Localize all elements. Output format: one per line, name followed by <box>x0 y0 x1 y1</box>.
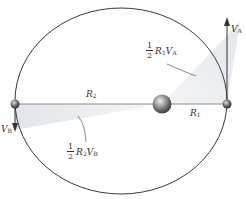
area-b-den: 2 <box>68 152 73 161</box>
area-a-v-sub: A <box>172 49 176 56</box>
leader-line-a <box>167 64 196 76</box>
swept-area-b <box>15 104 162 130</box>
area-b-expr: R2VB <box>76 147 98 157</box>
swept-area-a <box>162 22 240 104</box>
area-a-r: R <box>155 46 162 56</box>
planet-a-icon <box>223 100 232 109</box>
label-r2: R2 <box>86 90 97 99</box>
r2-base: R <box>86 89 93 99</box>
area-a-num: 1 <box>146 41 153 51</box>
vb-sub: B <box>8 127 12 134</box>
label-va: VA <box>231 25 242 34</box>
r1-sub: 1 <box>197 111 201 118</box>
orbit-diagram <box>0 0 246 199</box>
area-b-r: R <box>76 147 83 157</box>
label-area-a: 1 2 R1VA <box>146 41 177 60</box>
area-a-expr: R1VA <box>155 46 176 56</box>
label-vb: VB <box>1 125 12 134</box>
r2-sub: 2 <box>93 92 97 99</box>
area-b-num: 1 <box>67 142 74 152</box>
area-b-v-sub: B <box>93 150 97 157</box>
label-r1: R1 <box>190 109 201 118</box>
planet-b-icon <box>11 100 20 109</box>
fraction-half-b: 1 2 <box>67 142 74 161</box>
label-area-b: 1 2 R2VB <box>67 142 98 161</box>
sun-icon <box>153 95 172 114</box>
va-sub: A <box>238 27 242 34</box>
r1-base: R <box>190 108 197 118</box>
area-a-den: 2 <box>147 51 152 60</box>
leader-line-b <box>78 116 86 142</box>
fraction-half-a: 1 2 <box>146 41 153 60</box>
